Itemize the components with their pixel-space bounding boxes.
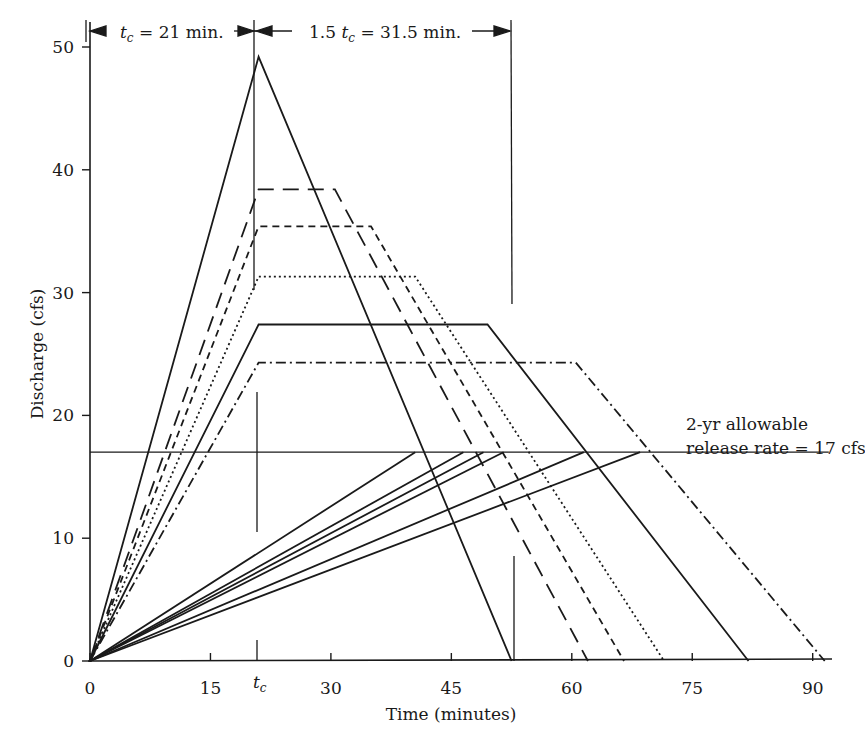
tc-dimension-label: tc = 21 min. bbox=[120, 22, 224, 45]
series-outflow-5 bbox=[90, 452, 584, 661]
x-tick-label: 30 bbox=[320, 678, 342, 698]
release-rate-label-line2: release rate = 17 cfs bbox=[686, 438, 865, 458]
y-tick-label: 30 bbox=[52, 283, 74, 303]
y-tick-label: 20 bbox=[52, 405, 74, 425]
x-tick-label: 15 bbox=[200, 678, 222, 698]
series-trapezoidal-hydrograph-3 bbox=[90, 277, 664, 661]
y-tick-label: 40 bbox=[52, 160, 74, 180]
reference-lines bbox=[86, 20, 514, 661]
x-tick-label: 45 bbox=[441, 678, 463, 698]
x-tick-label: 90 bbox=[802, 678, 824, 698]
x-axis-title: Time (minutes) bbox=[386, 704, 517, 724]
series-outflow-4 bbox=[90, 452, 504, 661]
axes bbox=[88, 22, 832, 662]
x-tick-label: 0 bbox=[85, 678, 96, 698]
x-axis bbox=[88, 659, 832, 661]
y-ticks: 01020304050 bbox=[52, 37, 90, 671]
y-tick-label: 0 bbox=[63, 651, 74, 671]
recession-dimension-label: 1.5 tc = 31.5 min. bbox=[309, 22, 461, 45]
x-tick-label: 75 bbox=[681, 678, 703, 698]
series-trapezoidal-hydrograph-1 bbox=[90, 189, 588, 661]
series-outflow-3 bbox=[90, 452, 484, 661]
y-axis-title: Discharge (cfs) bbox=[27, 289, 47, 420]
arrow-right-icon bbox=[494, 26, 510, 36]
arrow-left-icon bbox=[90, 26, 106, 36]
x-tick-label: 60 bbox=[561, 678, 583, 698]
y-tick-label: 10 bbox=[52, 528, 74, 548]
release-rate-label-line1: 2-yr allowable bbox=[686, 414, 808, 434]
series-group bbox=[90, 57, 829, 661]
arrow-right-icon bbox=[238, 26, 254, 36]
series-outflow-2 bbox=[90, 452, 463, 661]
end-vertical-upper bbox=[511, 20, 512, 304]
tc-tick-label: tc bbox=[253, 672, 267, 695]
hydrograph-chart: 01020304050 0153045607590 tc = 21 min. 1… bbox=[0, 0, 865, 741]
arrow-left-icon bbox=[256, 26, 272, 36]
y-tick-label: 50 bbox=[52, 37, 74, 57]
